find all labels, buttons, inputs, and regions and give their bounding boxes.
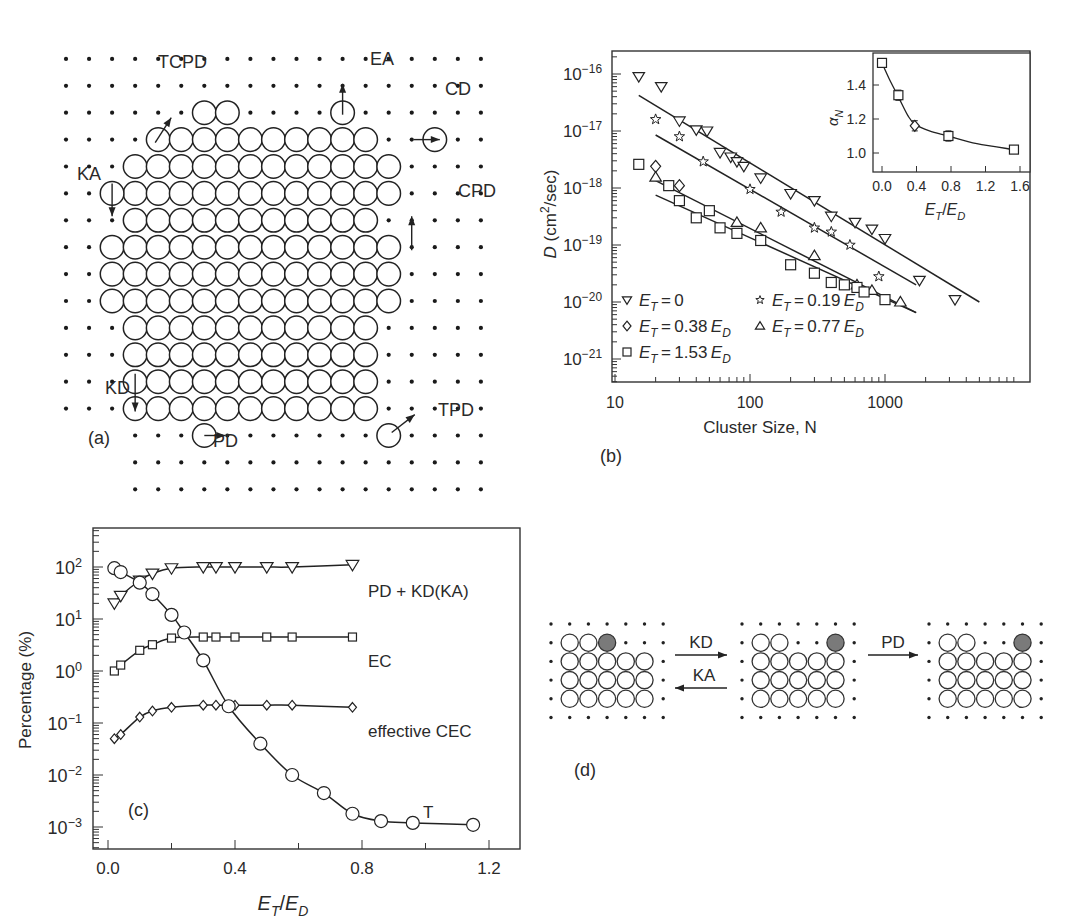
- lattice-site-dot: [479, 57, 483, 61]
- marker-square-icon: [212, 633, 220, 641]
- legend-item: ET = 1.53 ED: [623, 343, 731, 366]
- atom-circle: [580, 690, 597, 707]
- marker-square-icon: [117, 661, 125, 669]
- lattice-block: [549, 622, 665, 719]
- lattice-site-dot: [433, 111, 437, 115]
- lattice-site-dot: [456, 326, 460, 330]
- y-axis-title: D (cm2/sec): [538, 170, 560, 259]
- arrow-kd-icon: [675, 652, 727, 659]
- atom-circle: [169, 262, 193, 286]
- lattice-site-dot: [1040, 716, 1043, 719]
- lattice-site-dot: [946, 716, 949, 719]
- atom-circle: [354, 235, 378, 259]
- atom-circle: [146, 128, 170, 152]
- lattice-site-dot: [479, 111, 483, 115]
- label-kd: KD: [105, 378, 130, 398]
- marker-triangle-down-icon: [755, 174, 767, 184]
- x-axis-title: Cluster Size, N: [703, 418, 816, 437]
- atom-circle: [354, 209, 378, 233]
- atom-circle: [308, 262, 332, 286]
- lattice-site-dot: [1021, 622, 1024, 625]
- marker-triangle-down-icon: [210, 563, 223, 573]
- lattice-site-dot: [479, 272, 483, 276]
- marker-triangle-down-icon: [108, 599, 121, 609]
- lattice-site-dot: [202, 84, 206, 88]
- legend-label: ET = 0.19 ED: [772, 291, 864, 314]
- lattice-site-dot: [479, 84, 483, 88]
- lattice-site-dot: [740, 678, 743, 681]
- lattice-site-dot: [965, 716, 968, 719]
- moving-atom: [1014, 634, 1031, 651]
- atom-circle: [580, 634, 597, 651]
- lattice-site-dot: [433, 487, 437, 491]
- lattice-site-dot: [549, 678, 552, 681]
- lattice-site-dot: [456, 487, 460, 491]
- atom-circle: [193, 370, 217, 394]
- lattice-site-dot: [1021, 716, 1024, 719]
- inset-x-tick-label: 1.6: [1010, 178, 1030, 194]
- marker-square-icon: [148, 641, 156, 649]
- inset-chart: 0.00.40.81.21.61.01.21.4ET/EDαN: [824, 53, 1030, 222]
- lattice-site-dot: [662, 641, 665, 644]
- atom-circle: [193, 155, 217, 179]
- lattice-site-dot: [927, 641, 930, 644]
- atom-circle: [123, 155, 147, 179]
- atom-circle: [239, 209, 263, 233]
- lattice-site-dot: [549, 622, 552, 625]
- atom-circle: [377, 262, 401, 286]
- atom-circle: [262, 235, 286, 259]
- atom-circle: [827, 690, 844, 707]
- atom-circle: [239, 289, 263, 313]
- marker-diamond-icon: [674, 180, 684, 192]
- series-star: [650, 114, 884, 281]
- marker-triangle-down-icon: [714, 148, 726, 158]
- atom-circle: [262, 397, 286, 421]
- lattice-site-dot: [64, 191, 68, 195]
- atom-circle: [285, 397, 309, 421]
- atom-circle: [285, 262, 309, 286]
- atom-circle: [958, 672, 975, 689]
- marker-triangle-up-icon: [809, 250, 821, 260]
- lattice-site-dot: [433, 299, 437, 303]
- atom-circle: [146, 370, 170, 394]
- atom-circle: [331, 343, 355, 367]
- atom-circle: [561, 653, 578, 670]
- marker-square-icon: [263, 633, 271, 641]
- y-tick-label: 10−3: [48, 816, 82, 838]
- lattice-site-dot: [433, 326, 437, 330]
- marker-triangle-up-icon: [755, 222, 767, 232]
- lattice-site-dot: [179, 84, 183, 88]
- marker-triangle-up-icon: [755, 322, 764, 330]
- panel-label-a: (a): [88, 428, 110, 448]
- lattice-site-dot: [624, 622, 627, 625]
- lattice-site-dot: [387, 326, 391, 330]
- atom-circle: [377, 289, 401, 313]
- atom-circle: [752, 634, 769, 651]
- atom-circle: [169, 235, 193, 259]
- lattice-site-dot: [410, 326, 414, 330]
- lattice-site-dot: [317, 84, 321, 88]
- lattice-site-dot: [387, 84, 391, 88]
- lattice-site-dot: [341, 487, 345, 491]
- marker-square-icon: [732, 228, 742, 238]
- lattice-site-dot: [271, 111, 275, 115]
- lattice-site-dot: [317, 57, 321, 61]
- lattice-site-dot: [479, 138, 483, 142]
- atom-circle: [216, 155, 240, 179]
- lattice-site-dot: [387, 460, 391, 464]
- lattice-site-dot: [87, 353, 91, 357]
- label-ea: EA: [370, 49, 394, 69]
- marker-circle-icon: [146, 588, 159, 601]
- marker-square-icon: [674, 196, 684, 206]
- lattice-site-dot: [1002, 716, 1005, 719]
- atom-circle: [285, 343, 309, 367]
- lattice-site-dot: [433, 84, 437, 88]
- atom-circle: [808, 653, 825, 670]
- atom-circle: [354, 289, 378, 313]
- atom-circle: [216, 182, 240, 206]
- lattice-site-dot: [410, 272, 414, 276]
- lattice-site-dot: [740, 641, 743, 644]
- marker-star-icon: [674, 131, 684, 141]
- lattice-site-dot: [479, 299, 483, 303]
- lattice-site-dot: [202, 487, 206, 491]
